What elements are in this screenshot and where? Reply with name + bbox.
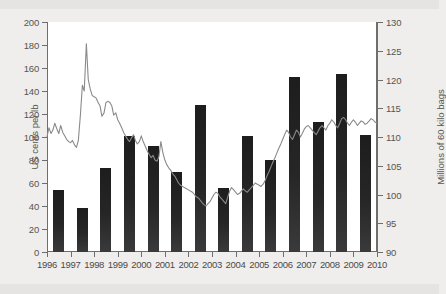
y-right-tick <box>378 80 383 81</box>
y-left-tick-label: 0 <box>34 247 39 258</box>
x-tick-label-2004: 2004 <box>226 259 246 270</box>
x-tick-label-2006: 2006 <box>273 259 293 270</box>
y-right-tick-label: 110 <box>386 132 401 143</box>
y-right-tick <box>378 223 383 224</box>
x-tick-label-2009: 2009 <box>343 259 363 270</box>
y-right-tick-label: 105 <box>386 160 401 171</box>
y-left-tick <box>42 160 47 161</box>
x-tick-label-2000: 2000 <box>131 259 151 270</box>
x-tick <box>47 252 48 257</box>
y-right-tick <box>378 195 383 196</box>
x-tick-label-1998: 1998 <box>84 259 104 270</box>
y-right-tick-label: 115 <box>386 103 401 114</box>
x-tick-label-2002: 2002 <box>178 259 198 270</box>
scan-band-top <box>0 0 439 9</box>
x-tick <box>118 252 119 257</box>
line-series-price <box>47 22 377 252</box>
x-tick-label-2001: 2001 <box>155 259 175 270</box>
y-left-tick-label: 180 <box>24 40 39 51</box>
y-right-tick <box>378 252 383 253</box>
x-tick-label-2010: 2010 <box>367 259 387 270</box>
y-left-tick-label: 160 <box>24 63 39 74</box>
x-tick-label-1996: 1996 <box>37 259 57 270</box>
y-right-tick-label: 90 <box>386 247 396 258</box>
y-axis-right-title: Millions of 60 kilo bags <box>435 89 446 185</box>
y-left-tick <box>42 22 47 23</box>
y-left-tick-label: 140 <box>24 86 39 97</box>
x-tick <box>306 252 307 257</box>
y-left-tick <box>42 137 47 138</box>
y-left-tick <box>42 229 47 230</box>
x-tick-label-2005: 2005 <box>249 259 269 270</box>
y-left-tick <box>42 206 47 207</box>
y-left-tick-label: 20 <box>29 224 39 235</box>
x-tick-label-1997: 1997 <box>61 259 81 270</box>
y-right-tick <box>378 108 383 109</box>
y-left-tick <box>42 91 47 92</box>
y-axis-right: 9095100105110115120125130 <box>377 22 378 252</box>
x-tick <box>94 252 95 257</box>
y-right-tick-label: 100 <box>386 189 401 200</box>
y-left-tick <box>42 183 47 184</box>
x-tick <box>236 252 237 257</box>
y-right-tick-label: 125 <box>386 45 401 56</box>
y-right-tick-label: 130 <box>386 17 401 28</box>
y-right-tick <box>378 22 383 23</box>
x-tick <box>165 252 166 257</box>
y-right-tick <box>378 51 383 52</box>
x-tick <box>259 252 260 257</box>
y-right-tick-label: 120 <box>386 74 401 85</box>
x-tick-label-2007: 2007 <box>296 259 316 270</box>
y-left-tick-label: 40 <box>29 201 39 212</box>
y-right-tick <box>378 137 383 138</box>
x-tick <box>330 252 331 257</box>
x-tick <box>212 252 213 257</box>
x-tick <box>141 252 142 257</box>
y-left-tick <box>42 45 47 46</box>
y-axis-left-title: US cents per lb <box>29 105 40 170</box>
y-left-tick-label: 60 <box>29 178 39 189</box>
y-left-tick-label: 200 <box>24 17 39 28</box>
y-left-tick <box>42 114 47 115</box>
y-left-tick <box>42 68 47 69</box>
x-tick <box>283 252 284 257</box>
y-right-tick-label: 95 <box>386 218 396 229</box>
x-tick-label-1999: 1999 <box>108 259 128 270</box>
x-tick <box>353 252 354 257</box>
plot-area <box>47 22 377 252</box>
x-tick-label-2003: 2003 <box>202 259 222 270</box>
scan-band-bottom <box>0 284 439 294</box>
x-tick <box>377 252 378 257</box>
y-right-tick <box>378 166 383 167</box>
x-tick <box>188 252 189 257</box>
x-tick-label-2008: 2008 <box>320 259 340 270</box>
x-tick <box>71 252 72 257</box>
